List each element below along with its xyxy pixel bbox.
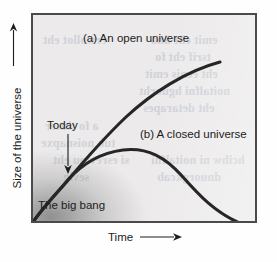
- xaxis-arrow-icon: [140, 232, 184, 242]
- xaxis-title-wrapper: Time: [108, 231, 184, 243]
- cosmology-expansion-figure: erwollot eht emit eht dna tsrif eht fo e…: [0, 0, 277, 262]
- big-bang-label: The big bang: [38, 199, 105, 211]
- yaxis-title-wrapper: Size of the universe: [7, 68, 27, 208]
- open-universe-label: (a) An open universe: [83, 32, 189, 44]
- today-label: Today: [47, 119, 78, 131]
- closed-universe-label: (b) A closed universe: [140, 128, 247, 140]
- today-arrow-head: [64, 165, 72, 174]
- yaxis-title: Size of the universe: [11, 88, 23, 189]
- closed-universe-curve: [33, 150, 242, 224]
- open-universe-curve: [33, 62, 220, 222]
- xaxis-title: Time: [108, 231, 133, 243]
